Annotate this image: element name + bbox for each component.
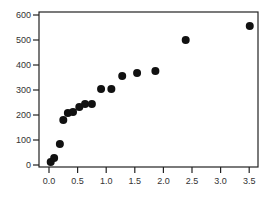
y-tick-label: 0 [26,160,31,170]
y-tick-label: 400 [16,60,31,70]
x-tick-label: 0.5 [71,176,84,186]
plot-frame [39,12,258,167]
data-point [246,22,254,30]
x-tick-label: 2.5 [186,176,199,186]
x-tick-label: 3.0 [214,176,227,186]
data-point [133,69,141,77]
data-point [107,85,115,93]
x-tick-label: 0.0 [43,176,56,186]
data-point [56,140,64,148]
data-point [50,154,58,162]
x-tick-label: 2.0 [157,176,170,186]
scatter-chart: 0100200300400500600 0.00.51.01.52.02.53.… [0,0,280,197]
y-tick-label: 300 [16,85,31,95]
data-point [59,116,67,124]
y-axis: 0100200300400500600 [16,10,39,170]
y-tick-label: 500 [16,35,31,45]
y-tick-label: 600 [16,10,31,20]
y-tick-label: 200 [16,110,31,120]
x-tick-label: 3.5 [243,176,256,186]
data-point [88,100,96,108]
data-point [182,36,190,44]
x-tick-label: 1.0 [100,176,113,186]
data-point [69,108,77,116]
y-tick-label: 100 [16,135,31,145]
x-axis: 0.00.51.01.52.02.53.03.5 [43,167,256,186]
data-point [81,100,89,108]
x-tick-label: 1.5 [129,176,142,186]
data-point [97,85,105,93]
data-point [151,67,159,75]
data-point [118,72,126,80]
